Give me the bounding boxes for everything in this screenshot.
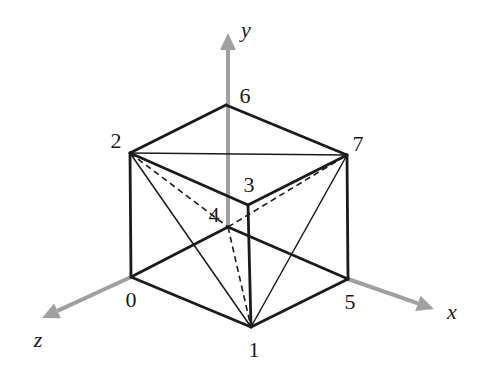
- hidden-edges: [130, 153, 347, 327]
- vertex-label-2: 2: [111, 130, 122, 152]
- edge-6-7: [226, 105, 347, 155]
- diagonal-2-7: [130, 153, 347, 155]
- cube-edges: [130, 105, 348, 327]
- vertex-label-7: 7: [353, 133, 364, 155]
- axis-y-arrowhead-icon: [220, 33, 236, 50]
- face-diagonals: [130, 153, 347, 327]
- axis-x-line: [348, 279, 418, 303]
- axis-x-arrowhead-icon: [415, 296, 434, 311]
- edge-7-5: [347, 155, 348, 279]
- edge-2-0: [130, 153, 131, 277]
- edge-4-5: [228, 227, 348, 279]
- vertex-label-6: 6: [240, 85, 251, 107]
- edge-3-1: [248, 205, 251, 327]
- axis-label-z: z: [34, 329, 43, 351]
- edge-0-4: [131, 227, 228, 277]
- axis-z-line: [57, 277, 131, 311]
- edge-1-5: [251, 279, 348, 327]
- vertex-label-4: 4: [209, 204, 220, 226]
- vertex-label-5: 5: [345, 291, 356, 313]
- axis-label-y: y: [241, 19, 251, 41]
- vertex-label-1: 1: [249, 339, 260, 361]
- edge-2-6: [130, 105, 226, 153]
- axis-label-x: x: [447, 301, 457, 323]
- vertex-label-3: 3: [244, 174, 255, 196]
- vertex-label-0: 0: [126, 289, 137, 311]
- axes: [42, 33, 434, 318]
- edge-3-7: [248, 155, 347, 205]
